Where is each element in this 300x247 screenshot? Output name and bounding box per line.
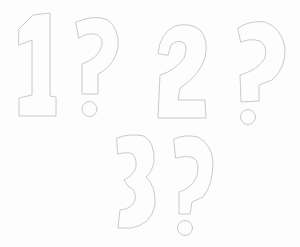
question-mark-3-outline xyxy=(174,136,213,214)
question-mark-1-dot xyxy=(82,102,97,117)
question-mark-3-dot xyxy=(178,221,193,236)
digit-two-outline xyxy=(158,25,206,118)
question-mark-2-outline xyxy=(238,22,285,102)
sketch-drawing xyxy=(0,0,300,247)
digit-three-outline xyxy=(117,135,155,228)
question-mark-2-dot xyxy=(241,110,256,125)
digit-one-outline xyxy=(19,13,56,116)
question-mark-1-outline xyxy=(76,17,118,94)
sketch-canvas: 1? 2? 3? xyxy=(0,0,300,247)
